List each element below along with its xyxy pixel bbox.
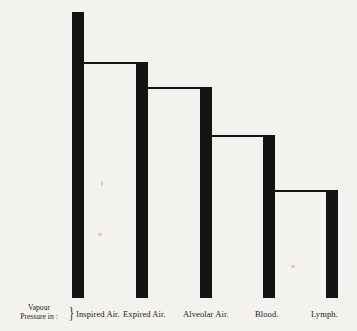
brace-icon: } [69,305,74,322]
bar-alveolar-air [200,88,212,298]
scan-artifact [291,265,295,268]
bar-expired-air [136,63,148,298]
category-label-lymph: Lymph. [311,309,338,319]
bar-lymph [326,191,338,298]
category-label-expired-air: Expired Air. [123,309,166,319]
category-label-blood: Blood. [255,309,279,319]
category-label-row: Vapour Pressure in : } Inspired Air. Exp… [0,300,357,331]
scan-artifact [101,181,103,186]
axis-caption-line-2: Pressure in : [6,313,72,322]
bar-blood [263,136,275,298]
bar-inspired-air [72,12,84,298]
category-label-inspired-air: Inspired Air. [76,309,120,319]
axis-caption: Vapour Pressure in : [6,304,72,321]
scan-artifact [98,233,102,236]
vapour-pressure-step-chart-figure: Vapour Pressure in : } Inspired Air. Exp… [0,0,357,331]
chart-plot-area [0,0,357,302]
category-label-alveolar-air: Alveolar Air. [183,309,229,319]
